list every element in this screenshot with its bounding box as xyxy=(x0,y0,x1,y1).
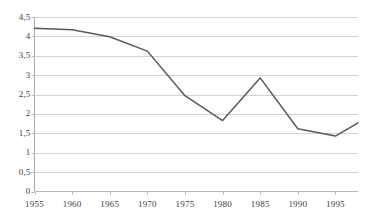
y-axis-tick-label: 4 xyxy=(5,31,31,41)
axis-lines-group xyxy=(35,17,359,192)
x-axis-tick-label: 1975 xyxy=(165,199,205,209)
line-chart: 00,511,522,533,544,5 1955196019651970197… xyxy=(0,0,371,223)
x-axis-tick-label: 1965 xyxy=(90,199,130,209)
y-axis-tick-label: 1,5 xyxy=(5,128,31,138)
y-axis-tick-label: 4,5 xyxy=(5,12,31,22)
y-axis-tick-label: 0 xyxy=(5,186,31,196)
y-axis-tick-label: 3 xyxy=(5,70,31,80)
gridlines-group xyxy=(35,18,359,173)
x-axis-tick-label: 1995 xyxy=(315,199,355,209)
y-axis-tick-label: 2,5 xyxy=(5,89,31,99)
x-axis-tick-label: 1960 xyxy=(52,199,92,209)
y-axis-tick-label: 2 xyxy=(5,108,31,118)
y-axis-tick-label: 3,5 xyxy=(5,50,31,60)
x-axis-tick-label: 1990 xyxy=(278,199,318,209)
x-axis-tick-label: 1970 xyxy=(127,199,167,209)
y-axis-tick-label: 1 xyxy=(5,147,31,157)
y-axis-tick-label: 0,5 xyxy=(5,167,31,177)
x-axis-tick-label: 1980 xyxy=(203,199,243,209)
chart-plot-area xyxy=(0,0,371,223)
x-axis-tick-label: 1985 xyxy=(240,199,280,209)
x-axis-tick-label: 1955 xyxy=(15,199,55,209)
data-series-line xyxy=(35,28,359,136)
